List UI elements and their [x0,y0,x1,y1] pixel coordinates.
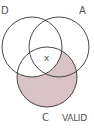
label-c: C [42,113,49,123]
center-mark: x [44,53,49,63]
verdict-label: VALID [62,113,87,123]
label-d: D [1,6,9,16]
venn-diagram [0,0,94,130]
label-a: A [79,6,86,16]
